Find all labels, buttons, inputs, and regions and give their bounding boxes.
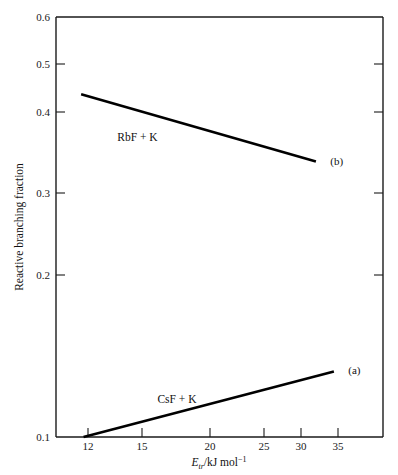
y-tick-label-0.1: 0.1	[36, 431, 50, 443]
series-annotation-rbf-k: RbF + K	[117, 131, 158, 143]
x-tick-label-15: 15	[137, 440, 149, 452]
series-line-csf-k	[84, 371, 334, 437]
y-tick-label-0.4: 0.4	[36, 106, 50, 118]
x-axis-title-superscript: −1	[238, 455, 247, 464]
y-tick-label-0.5: 0.5	[36, 58, 50, 70]
figure-container: 0.6 0.5 0.4 0.3 0.2 0.1 12 15 20 25 30 3…	[0, 0, 398, 475]
series-annotation-csf-k: CsF + K	[157, 393, 197, 405]
x-tick-label-35: 35	[333, 440, 345, 452]
line-chart: 0.6 0.5 0.4 0.3 0.2 0.1 12 15 20 25 30 3…	[0, 0, 398, 475]
y-tick-label-0.6: 0.6	[36, 11, 50, 23]
x-axis-title-units: /kJ mol	[204, 456, 238, 468]
y-tick-label-0.3: 0.3	[36, 187, 50, 199]
series-line-rbf-k	[81, 94, 316, 161]
curve-tag-b: (b)	[330, 155, 343, 168]
curve-tag-a: (a)	[348, 364, 361, 377]
x-tick-label-20: 20	[205, 440, 217, 452]
x-axis-title: Etr/kJ mol−1	[190, 455, 246, 471]
y-tick-label-0.2: 0.2	[36, 269, 50, 281]
x-tick-label-12: 12	[83, 440, 94, 452]
x-axis-title-symbol: E	[190, 456, 198, 468]
y-axis-title: Reactive branching fraction	[13, 163, 26, 291]
x-tick-label-25: 25	[259, 440, 271, 452]
x-tick-label-30: 30	[296, 440, 308, 452]
